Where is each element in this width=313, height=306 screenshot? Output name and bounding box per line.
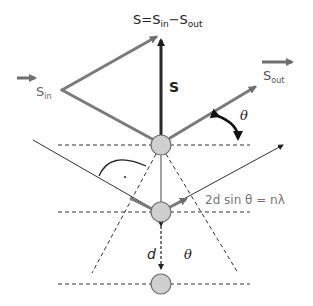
s-in-to-top [62,37,156,90]
cone-line-right [166,154,238,273]
s-in-label: Sin [36,84,52,101]
atom-middle [151,202,171,222]
incident-ray [33,140,155,210]
bragg-diagram: S=Sin−Sout Sin Sout S θ 2d sin θ = nλ d … [0,0,313,306]
s-in-to-atom [62,90,154,140]
s-out-label: Sout [263,68,284,85]
theta-top-label: θ [240,108,248,123]
vector-triangle [62,37,255,140]
theta-bottom-label: θ [184,247,192,262]
atom-bottom [151,274,171,294]
right-angle-arc [99,160,146,176]
s-vector-label: S [169,79,179,95]
scattering-vector-equation: S=Sin−Sout [133,12,203,29]
theta-angle-arrow [218,116,238,138]
right-angle-dot [124,176,126,178]
atom-top [151,135,171,155]
d-spacing-label: d [147,246,156,262]
bragg-law-label: 2d sin θ = nλ [205,193,285,207]
